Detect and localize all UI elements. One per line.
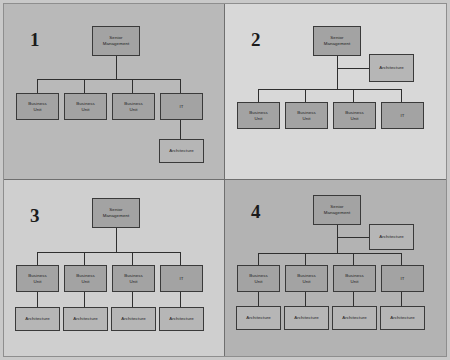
connector-drop-2 — [305, 253, 306, 265]
connector-drop-2 — [305, 89, 306, 102]
business-unit-2-line-2: Unit — [66, 107, 105, 113]
node-architecture-2: Architecture — [63, 307, 108, 331]
business-unit-1-line-2: Unit — [239, 116, 278, 122]
connector-stem — [116, 56, 117, 79]
architecture-label: Architecture — [161, 148, 202, 154]
business-unit-3-line-2: Unit — [335, 279, 374, 285]
business-unit-1-line-2: Unit — [18, 107, 57, 113]
architecture-3-label: Architecture — [113, 316, 154, 322]
connector-staff-architecture — [337, 237, 369, 238]
connector-unit-1-architecture — [37, 292, 38, 307]
node-senior-management: Senior Management — [92, 26, 140, 56]
connector-drop-3 — [353, 89, 354, 102]
quadrant-3: 3 Senior Management Business Unit Busine… — [4, 180, 225, 356]
node-senior-management: Senior Management — [313, 195, 361, 225]
architecture-2-label: Architecture — [65, 316, 106, 322]
senior-management-line-2: Management — [315, 41, 359, 47]
node-business-unit-2: Business Unit — [64, 93, 107, 120]
connector-drop-1 — [258, 253, 259, 265]
node-senior-management: Senior Management — [92, 198, 140, 228]
node-architecture-4: Architecture — [159, 307, 204, 331]
business-unit-3-line-2: Unit — [114, 107, 153, 113]
node-architecture-3: Architecture — [111, 307, 156, 331]
connector-it-architecture — [401, 292, 402, 306]
node-architecture-3: Architecture — [332, 306, 377, 330]
architecture-4-label: Architecture — [161, 316, 202, 322]
senior-management-line-2: Management — [94, 41, 138, 47]
staff-architecture-label: Architecture — [371, 234, 412, 240]
node-business-unit-1: Business Unit — [237, 102, 280, 129]
node-staff-architecture: Architecture — [369, 54, 414, 82]
it-label: IT — [383, 276, 422, 282]
connector-unit-2-architecture — [305, 292, 306, 306]
quadrant-1: 1 Senior Management Business Unit Busine… — [4, 4, 225, 180]
quadrant-2: 2 Senior Management Architecture Busines… — [225, 4, 446, 180]
node-it: IT — [381, 265, 424, 292]
business-unit-3-line-2: Unit — [114, 279, 153, 285]
connector-drop-1 — [37, 79, 38, 93]
node-business-unit-1: Business Unit — [16, 265, 59, 292]
connector-stem — [116, 228, 117, 252]
node-it: IT — [160, 265, 203, 292]
connector-drop-2 — [84, 79, 85, 93]
it-label: IT — [383, 113, 422, 119]
connector-stem — [337, 56, 338, 89]
connector-drop-1 — [258, 89, 259, 102]
connector-unit-1-architecture — [258, 292, 259, 306]
node-business-unit-1: Business Unit — [237, 265, 280, 292]
vertical-divider — [224, 4, 225, 356]
connector-it-architecture — [180, 292, 181, 307]
connector-unit-3-architecture — [132, 292, 133, 307]
architecture-1-label: Architecture — [17, 316, 58, 322]
node-business-unit-3: Business Unit — [333, 102, 376, 129]
node-senior-management: Senior Management — [313, 26, 361, 56]
node-business-unit-2: Business Unit — [64, 265, 107, 292]
connector-drop-1 — [37, 252, 38, 265]
connector-drop-3 — [132, 252, 133, 265]
business-unit-2-line-2: Unit — [66, 279, 105, 285]
connector-unit-3-architecture — [353, 292, 354, 306]
connector-bus — [37, 252, 180, 253]
connector-bus — [258, 89, 401, 90]
quadrant-4: 4 Senior Management Architecture Busines… — [225, 180, 446, 356]
architecture-3-label: Architecture — [334, 315, 375, 321]
architecture-2-label: Architecture — [286, 315, 327, 321]
node-business-unit-1: Business Unit — [16, 93, 59, 120]
business-unit-1-line-2: Unit — [239, 279, 278, 285]
it-label: IT — [162, 104, 201, 110]
business-unit-1-line-2: Unit — [18, 279, 57, 285]
node-architecture-4: Architecture — [380, 306, 425, 330]
senior-management-line-2: Management — [315, 210, 359, 216]
connector-bus — [258, 253, 401, 254]
connector-staff-architecture — [337, 68, 369, 69]
quadrant-4-number: 4 — [251, 202, 261, 221]
node-architecture-1: Architecture — [236, 306, 281, 330]
node-architecture-2: Architecture — [284, 306, 329, 330]
connector-drop-4 — [401, 253, 402, 265]
node-it: IT — [160, 93, 203, 120]
connector-drop-4 — [401, 89, 402, 102]
staff-architecture-label: Architecture — [371, 65, 412, 71]
business-unit-3-line-2: Unit — [335, 116, 374, 122]
senior-management-line-2: Management — [94, 213, 138, 219]
quadrant-1-number: 1 — [30, 30, 40, 49]
business-unit-2-line-2: Unit — [287, 116, 326, 122]
connector-drop-4 — [180, 79, 181, 93]
connector-drop-4 — [180, 252, 181, 265]
node-architecture-1: Architecture — [15, 307, 60, 331]
horizontal-divider — [4, 179, 446, 180]
connector-it-to-architecture — [180, 120, 181, 139]
node-business-unit-3: Business Unit — [333, 265, 376, 292]
connector-drop-3 — [132, 79, 133, 93]
node-architecture: Architecture — [159, 139, 204, 163]
node-business-unit-3: Business Unit — [112, 93, 155, 120]
it-label: IT — [162, 276, 201, 282]
quadrant-2-number: 2 — [251, 30, 261, 49]
node-business-unit-2: Business Unit — [285, 265, 328, 292]
connector-unit-2-architecture — [84, 292, 85, 307]
node-it: IT — [381, 102, 424, 129]
connector-drop-2 — [84, 252, 85, 265]
connector-bus — [37, 79, 180, 80]
connector-stem — [337, 225, 338, 253]
connector-drop-3 — [353, 253, 354, 265]
